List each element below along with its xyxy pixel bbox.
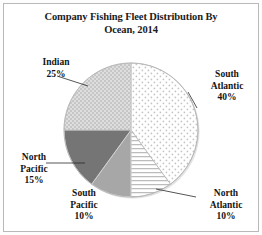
slice-label-north-atlantic-line-1: North [196, 188, 256, 200]
slice-label-indian: Indian 25% [28, 57, 84, 80]
slice-label-south-atlantic: South Atlantic 40% [198, 69, 256, 104]
slice-label-south-atlantic-line-1: South [198, 69, 256, 81]
slice-label-indian-name: Indian [28, 57, 84, 69]
slice-label-north-atlantic-value: 10% [196, 211, 256, 223]
slice-label-south-pacific-line-2: Pacific [55, 200, 113, 212]
slice-label-south-pacific-line-1: South [55, 188, 113, 200]
slice-label-north-pacific-line-1: North [6, 152, 62, 164]
slice-label-north-pacific-value: 15% [6, 175, 62, 187]
slice-label-south-atlantic-value: 40% [198, 92, 256, 104]
slice-label-south-pacific: South Pacific 10% [55, 188, 113, 223]
slice-label-indian-value: 25% [28, 69, 84, 81]
slice-label-north-pacific: North Pacific 15% [6, 152, 62, 187]
slice-label-north-atlantic-line-2: Atlantic [196, 200, 256, 212]
slice-label-south-pacific-value: 10% [55, 211, 113, 223]
slice-label-north-pacific-line-2: Pacific [6, 164, 62, 176]
leader-line-north-atlantic [156, 189, 196, 197]
pie-chart-figure: Company Fishing Fleet Distribution By Oc… [0, 0, 262, 235]
slice-label-north-atlantic: North Atlantic 10% [196, 188, 256, 223]
slice-label-south-atlantic-line-2: Atlantic [198, 81, 256, 93]
